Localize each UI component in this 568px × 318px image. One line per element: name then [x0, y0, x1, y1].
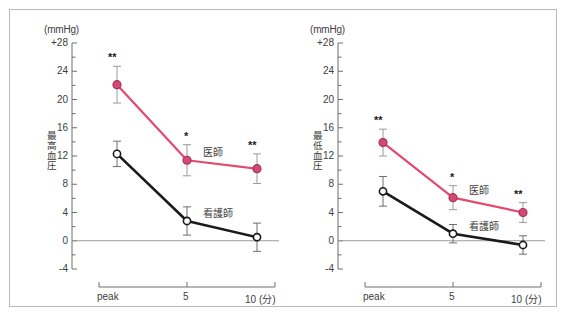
figure-frame: (mmHg) 最高血圧 -404812162024+28peak510 (分)*…	[9, 9, 557, 307]
series-label-nurse: 看護師	[203, 205, 233, 220]
series-label-doctor: 医師	[469, 182, 489, 197]
significance-marker: **	[514, 189, 523, 200]
y-tick-label: 20	[296, 94, 334, 105]
series-label-nurse: 看護師	[469, 218, 499, 233]
y-tick-label: 12	[30, 150, 68, 161]
chart-systolic: (mmHg) 最高血圧 -404812162024+28peak510 (分)*…	[10, 10, 294, 308]
significance-marker: *	[184, 131, 188, 142]
x-tick-label: peak	[97, 291, 119, 302]
y-tick-label: 8	[30, 178, 68, 189]
y-tick-label: 24	[296, 65, 334, 76]
y-tick-label: +28	[296, 37, 334, 48]
y-tick-label: -4	[30, 263, 68, 274]
significance-marker: **	[374, 115, 383, 126]
y-tick-label: 0	[30, 235, 68, 246]
y-tick-label: 0	[296, 235, 334, 246]
series-label-doctor: 医師	[203, 144, 223, 159]
significance-marker: **	[108, 52, 117, 63]
y-tick-label: 4	[30, 207, 68, 218]
y-tick-label: 20	[30, 94, 68, 105]
y-tick-label: 12	[296, 150, 334, 161]
y-tick-label: 16	[30, 122, 68, 133]
x-tick-label: peak	[363, 291, 385, 302]
y-tick-label: +28	[30, 37, 68, 48]
x-tick-label: 10 (分)	[245, 291, 276, 306]
x-tick-label: 5	[449, 291, 455, 302]
significance-marker: *	[450, 172, 454, 183]
y-tick-label: 4	[296, 207, 334, 218]
y-tick-label: 16	[296, 122, 334, 133]
significance-marker: **	[248, 140, 257, 151]
y-tick-label: 8	[296, 178, 334, 189]
y-tick-label: 24	[30, 65, 68, 76]
chart-diastolic: (mmHg) 最低血圧 -404812162024+28peak510 (分)*…	[276, 10, 560, 308]
y-tick-label: -4	[296, 263, 334, 274]
x-tick-label: 5	[183, 291, 189, 302]
x-tick-label: 10 (分)	[511, 291, 542, 306]
